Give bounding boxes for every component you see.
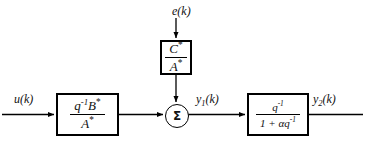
noise-numerator: C* (165, 41, 186, 57)
filter-numerator: q-1 (256, 100, 300, 114)
signal-label-e: e(k) (172, 4, 191, 19)
noise-fraction: C* A* (165, 41, 186, 74)
noise-transfer-function-block: C* A* (160, 40, 192, 75)
connection-wires (0, 0, 365, 153)
plant-fraction: q-1B* A* (70, 98, 104, 131)
signal-label-u: u(k) (14, 92, 33, 107)
summing-junction: Σ (165, 104, 189, 128)
signal-label-y1: y1(k) (196, 92, 219, 108)
plant-denominator: A* (70, 114, 104, 131)
noise-denominator: A* (165, 57, 186, 74)
sigma-symbol: Σ (173, 110, 181, 122)
plant-numerator: q-1B* (70, 98, 104, 114)
filter-denominator: 1 + αq-1 (256, 114, 300, 129)
plant-transfer-function-block: q-1B* A* (56, 93, 119, 136)
filter-fraction: q-1 1 + αq-1 (256, 100, 300, 129)
block-diagram: q-1B* A* C* A* q-1 1 + αq-1 Σ e(k) u(k) … (0, 0, 365, 153)
output-filter-block: q-1 1 + αq-1 (247, 93, 309, 136)
signal-label-y2: y2(k) (313, 92, 336, 108)
